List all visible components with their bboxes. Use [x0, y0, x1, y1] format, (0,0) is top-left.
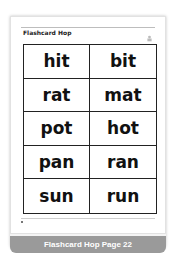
word-cell: run	[90, 179, 156, 213]
word-cell: pot	[24, 112, 90, 146]
word-cell: hot	[90, 112, 156, 146]
publisher-logo-icon	[21, 221, 23, 223]
footer-left	[21, 221, 24, 223]
word-cell: mat	[90, 79, 156, 113]
word-grid: hit bit rat mat pot hot pan ran sun run	[23, 44, 157, 214]
header-rule	[21, 27, 155, 28]
footer-rule	[21, 218, 155, 219]
word-cell: sun	[24, 179, 90, 213]
page-title: Flashcard Hop	[23, 29, 71, 36]
worksheet-page: Flashcard Hop hit bit rat mat pot hot pa…	[10, 16, 166, 234]
word-cell: pan	[24, 146, 90, 180]
word-cell: ran	[90, 146, 156, 180]
caption-banner[interactable]: Flashcard Hop Page 22	[10, 236, 166, 253]
mascot-icon	[146, 35, 153, 42]
word-cell: rat	[24, 79, 90, 113]
caption-label: Flashcard Hop Page 22	[44, 240, 132, 249]
page-footer	[21, 220, 155, 224]
word-cell: bit	[90, 45, 156, 79]
word-cell: hit	[24, 45, 90, 79]
page-thumbnail-card[interactable]: Flashcard Hop hit bit rat mat pot hot pa…	[10, 16, 166, 250]
